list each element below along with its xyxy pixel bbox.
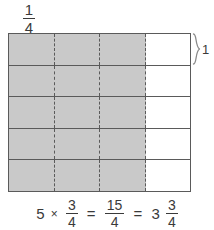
equation-mixed-fraction: 3 4	[166, 198, 178, 229]
unit-fraction-label: 1 4	[14, 2, 44, 35]
grid-cell	[9, 97, 55, 128]
grid-cell	[55, 160, 101, 191]
equation-equals-2: =	[134, 206, 143, 221]
grid-row	[9, 129, 190, 161]
equation-product-fraction: 15 4	[105, 198, 125, 229]
grid-cell	[100, 34, 146, 65]
grid-cell	[55, 66, 101, 97]
grid-row	[9, 66, 190, 98]
equation-factor-fraction: 3 4	[66, 198, 78, 229]
grid-cell	[55, 34, 101, 65]
grid-cell	[146, 66, 191, 97]
row-bracket-label: 1	[202, 43, 209, 56]
equation-times-symbol: ×	[51, 208, 58, 220]
area-model-grid	[8, 33, 191, 192]
grid-cell	[9, 34, 55, 65]
grid-row	[9, 34, 190, 66]
equation-mixed-whole: 3	[151, 206, 159, 221]
equation-product-numerator: 15	[105, 198, 125, 214]
equation-multiplier: 5	[36, 206, 44, 221]
figure-canvas: 1 4	[0, 0, 214, 230]
grid-cell	[100, 97, 146, 128]
grid-cell	[9, 129, 55, 160]
equation: 5 × 3 4 = 15 4 = 3 3 4	[0, 198, 214, 229]
grid-cell	[100, 160, 146, 191]
grid-cell	[9, 66, 55, 97]
equation-factor-denominator: 4	[66, 214, 78, 229]
equation-product-denominator: 4	[109, 214, 121, 229]
unit-fraction: 1 4	[23, 2, 35, 35]
grid-cell	[146, 97, 191, 128]
unit-fraction-numerator: 1	[23, 2, 35, 19]
grid-cell	[146, 129, 191, 160]
grid-row	[9, 160, 190, 191]
grid-cell	[55, 97, 101, 128]
grid-cell	[100, 66, 146, 97]
grid-cell	[100, 129, 146, 160]
row-bracket: 1	[192, 33, 214, 65]
curly-brace-icon	[192, 33, 201, 65]
grid-cell	[55, 129, 101, 160]
grid-cell	[146, 34, 191, 65]
equation-mixed-numerator: 3	[166, 198, 178, 214]
grid-cell	[9, 160, 55, 191]
grid-cell	[146, 160, 191, 191]
equation-mixed-denominator: 4	[166, 214, 178, 229]
grid-row	[9, 97, 190, 129]
equation-equals-1: =	[87, 206, 96, 221]
equation-factor-numerator: 3	[66, 198, 78, 214]
